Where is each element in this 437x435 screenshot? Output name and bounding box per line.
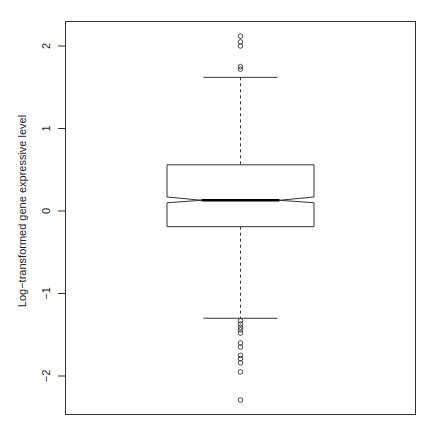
boxplot-chart: −2−1012 Log−transformed gene expressive …: [0, 0, 437, 435]
y-tick-label: 2: [40, 43, 52, 49]
y-axis-label: Log−transformed gene expressive level: [16, 115, 28, 307]
y-tick-label: 0: [40, 208, 52, 214]
y-tick-label: −1: [40, 287, 52, 300]
box-group: [167, 34, 314, 402]
notched-box: [167, 165, 314, 227]
y-axis: −2−1012: [40, 43, 66, 382]
outlier-point: [238, 398, 243, 403]
y-tick-label: 1: [40, 125, 52, 131]
outlier-point: [238, 370, 243, 375]
outlier-point: [238, 34, 243, 39]
y-tick-label: −2: [40, 370, 52, 383]
outlier-point: [238, 331, 243, 336]
